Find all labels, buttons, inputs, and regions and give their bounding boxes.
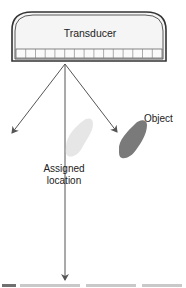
caption-fragment bbox=[142, 284, 182, 287]
transducer-label: Transducer bbox=[40, 27, 140, 39]
left-side-lobe-arrow bbox=[12, 64, 65, 133]
artifact-shape bbox=[66, 119, 93, 157]
assigned-location-label: Assigned location bbox=[34, 163, 94, 187]
clipped-caption bbox=[0, 283, 186, 288]
assigned-label-line2: location bbox=[34, 175, 94, 187]
assigned-label-line1: Assigned bbox=[34, 163, 94, 175]
diagram-svg bbox=[0, 0, 186, 288]
object-label: Object bbox=[144, 113, 173, 125]
caption-fragment bbox=[86, 284, 136, 287]
side-lobe-diagram: Transducer Object Assigned location bbox=[0, 0, 186, 288]
object-shape bbox=[119, 120, 147, 158]
caption-fragment bbox=[2, 284, 16, 287]
caption-fragment bbox=[20, 284, 80, 287]
